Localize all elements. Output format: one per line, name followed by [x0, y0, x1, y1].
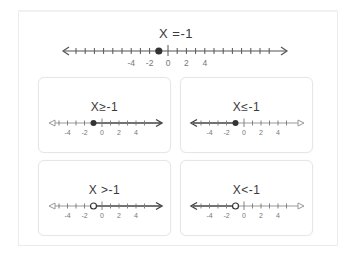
svg-text:4: 4: [276, 129, 280, 136]
svg-text:4: 4: [134, 129, 138, 136]
svg-text:2: 2: [184, 58, 189, 68]
left-arrow-icon: [49, 203, 55, 209]
svg-text:4: 4: [134, 212, 138, 219]
closed-point-icon: [233, 120, 239, 126]
card-title: X≤-1: [181, 100, 312, 114]
svg-text:-4: -4: [206, 129, 212, 136]
card-title: X >-1: [39, 183, 170, 197]
svg-text:2: 2: [259, 212, 263, 219]
svg-text:-2: -2: [146, 58, 154, 68]
svg-text:2: 2: [117, 129, 121, 136]
card-less-equal: X≤-1 -4 -2 0 2 4: [180, 77, 313, 153]
closed-point-icon: [91, 120, 97, 126]
closed-point-icon: [155, 47, 162, 54]
main-equation-title: X =-1: [0, 26, 352, 41]
card-greater-equal: X≥-1 -4 -2 0 2 4: [38, 77, 171, 153]
svg-text:-2: -2: [81, 212, 87, 219]
card-greater-than: X >-1 -4 -2 0 2 4: [38, 160, 171, 236]
card-title: X≥-1: [39, 100, 170, 114]
svg-text:-2: -2: [223, 212, 229, 219]
main-number-line: -4 -2 0 2 4: [60, 40, 292, 70]
svg-text:4: 4: [202, 58, 207, 68]
svg-text:0: 0: [100, 129, 104, 136]
right-arrow-icon: [298, 203, 304, 209]
card-less-than: X<-1 -4 -2 0 2 4: [180, 160, 313, 236]
open-point-icon: [233, 203, 239, 209]
svg-text:2: 2: [259, 129, 263, 136]
right-arrow-icon: [298, 120, 304, 126]
svg-text:0: 0: [100, 212, 104, 219]
svg-text:-4: -4: [127, 58, 135, 68]
number-line: -4 -2 0 2 4: [187, 198, 308, 224]
svg-text:0: 0: [242, 212, 246, 219]
svg-text:-4: -4: [206, 212, 212, 219]
left-arrow-icon: [49, 120, 55, 126]
number-line: -4 -2 0 2 4: [45, 198, 166, 224]
svg-text:0: 0: [242, 129, 246, 136]
svg-text:0: 0: [166, 58, 171, 68]
frame-top-edge: [18, 10, 338, 12]
svg-text:2: 2: [117, 212, 121, 219]
svg-text:-2: -2: [81, 129, 87, 136]
number-line: -4 -2 0 2 4: [187, 115, 308, 141]
svg-text:4: 4: [276, 212, 280, 219]
svg-text:-4: -4: [64, 129, 70, 136]
svg-text:-4: -4: [64, 212, 70, 219]
card-title: X<-1: [181, 183, 312, 197]
number-line: -4 -2 0 2 4: [45, 115, 166, 141]
open-point-icon: [91, 203, 97, 209]
svg-text:-2: -2: [223, 129, 229, 136]
